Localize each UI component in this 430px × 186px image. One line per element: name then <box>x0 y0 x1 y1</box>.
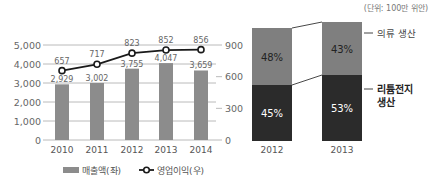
connector-line <box>292 75 322 85</box>
profit-marker <box>163 47 169 53</box>
clothing-share-label: 48% <box>261 52 283 63</box>
profit-marker <box>198 47 204 53</box>
profit-marker <box>94 61 100 67</box>
left-axis-tick: 1,000 <box>14 116 41 127</box>
right-axis-tick: 300 <box>225 103 243 114</box>
sales-bar <box>55 84 69 140</box>
profit-label: 856 <box>193 36 208 45</box>
sales-bar-label: 4,047 <box>155 54 178 63</box>
profit-label: 657 <box>54 57 69 66</box>
x-axis-label: 2014 <box>190 145 213 155</box>
lithium-share-label: 53% <box>331 103 353 114</box>
chart-canvas: 01,0002,0003,0004,0005,000 0300600900 2,… <box>0 0 430 186</box>
left-axis-tick: 3,000 <box>14 78 41 89</box>
left-axis-tick: 2,000 <box>14 97 41 108</box>
connector-line <box>292 22 322 28</box>
lithium-share-label: 45% <box>261 108 283 119</box>
sales-bar <box>159 63 173 140</box>
right-axis-tick: 0 <box>225 135 231 146</box>
unit-note: (단위: 100만 위안) <box>364 3 428 13</box>
sales-bar <box>125 69 139 140</box>
left-axis-tick: 5,000 <box>14 40 41 51</box>
right-axis-tick: 600 <box>225 71 243 82</box>
profit-marker <box>59 68 65 74</box>
x-axis-label: 2012 <box>261 145 284 155</box>
left-axis-tick: 0 <box>35 135 41 146</box>
left-axis-tick: 4,000 <box>14 59 41 70</box>
x-axis-label: 2010 <box>51 145 74 155</box>
x-axis-label: 2012 <box>121 145 144 155</box>
profit-label: 717 <box>89 50 104 59</box>
annotation-clothing: 의류 생산 <box>377 28 416 39</box>
annotation-lithium-line1: 리튬전지 <box>377 83 413 95</box>
sales-bar-label: 2,929 <box>51 75 74 84</box>
x-axis-label: 2011 <box>86 145 109 155</box>
profit-label: 823 <box>124 39 139 48</box>
x-axis-label: 2013 <box>155 145 178 155</box>
legend: 매출액(좌) 영업이익(우) <box>63 165 204 176</box>
x-axis-label: 2013 <box>331 145 354 155</box>
sales-bar-label: 3,755 <box>121 60 144 69</box>
profit-label: 852 <box>158 36 173 45</box>
legend-sales-label: 매출액(좌) <box>82 165 121 176</box>
legend-marker-icon <box>144 167 150 173</box>
sales-bar <box>90 83 104 140</box>
sales-bar-label: 3,659 <box>190 61 213 70</box>
sales-bar-label: 3,002 <box>86 74 109 83</box>
legend-profit-label: 영업이익(우) <box>157 165 204 176</box>
clothing-share-label: 43% <box>331 44 353 55</box>
profit-marker <box>129 50 135 56</box>
annotation-lithium-line2: 생산 <box>377 96 396 108</box>
sales-profit-chart: 01,0002,0003,0004,0005,000 0300600900 2,… <box>14 36 243 176</box>
legend-bar-swatch <box>63 167 79 173</box>
right-axis-tick: 900 <box>225 40 243 51</box>
sales-bar <box>194 70 208 140</box>
production-share-chart: (단위: 100만 위안) 48%45%201243%53%2013 의류 생산… <box>252 3 428 155</box>
